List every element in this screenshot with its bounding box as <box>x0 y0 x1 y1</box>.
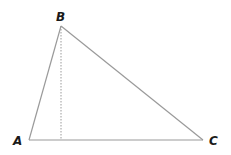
edge-ab <box>29 26 61 140</box>
triangle-diagram: B A C <box>0 0 231 155</box>
vertex-label-c: C <box>209 134 218 148</box>
vertex-label-a: A <box>12 134 22 148</box>
edge-bc <box>61 26 203 140</box>
vertex-label-b: B <box>56 10 65 24</box>
